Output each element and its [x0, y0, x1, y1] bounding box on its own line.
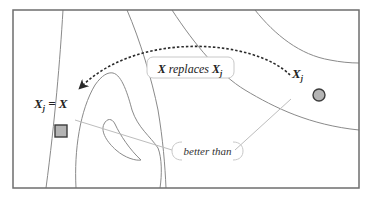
leader-line-left [75, 120, 172, 150]
leader-line-right [235, 99, 291, 150]
svg-text:X replaces Xj: X replaces Xj [157, 62, 223, 78]
left-point-label: Xj = X [33, 96, 68, 113]
better-than-bracket-left [172, 142, 182, 160]
new-point-square [55, 125, 67, 137]
contour-line-middle [127, 10, 166, 188]
right-point-label: Xj [291, 66, 304, 83]
better-than-label: better than [172, 142, 243, 160]
contour-inner-loop [103, 120, 141, 161]
replaces-label: X replaces Xj [147, 57, 234, 78]
better-than-text: better than [184, 145, 232, 157]
contour-diagram: X replaces Xj Xj = X Xj better than [0, 0, 370, 198]
better-than-bracket-right [233, 142, 243, 160]
replaces-word: replaces [166, 62, 212, 76]
contour-line-top-right [255, 10, 359, 63]
current-point-circle [313, 89, 325, 101]
